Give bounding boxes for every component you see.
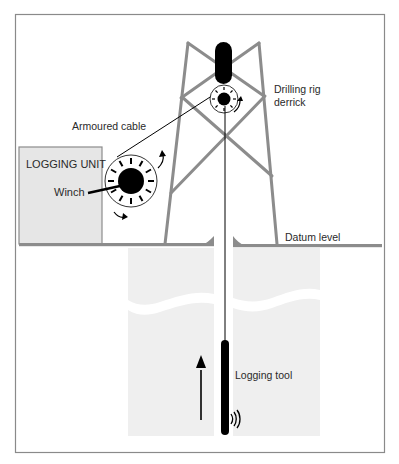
armoured-cable-label: Armoured cable [72, 120, 146, 132]
winch-label: Winch [54, 186, 85, 198]
crown-block [215, 42, 232, 84]
derrick-label-line1: Drilling rig [274, 83, 321, 95]
logging-tool-label: Logging tool [235, 369, 292, 381]
derrick-label-line2: derrick [274, 96, 306, 108]
logging-tool [221, 340, 229, 435]
datum-level-label: Datum level [285, 231, 340, 243]
logging-unit-label: LOGGING UNIT [26, 158, 106, 170]
wireline-logging-diagram: LOGGING UNIT Datum level Drilling rig de… [0, 0, 399, 464]
